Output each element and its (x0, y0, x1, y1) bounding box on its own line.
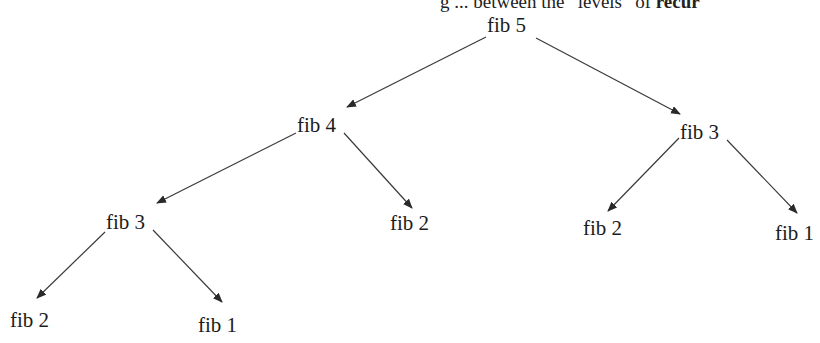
node-fib-2-mid: fib 2 (390, 212, 429, 234)
edge-arrow-n4-n9 (153, 230, 222, 302)
node-fib-1-bottom: fib 1 (198, 314, 237, 336)
node-fib-2-bottom-left: fib 2 (10, 309, 49, 331)
edge-arrow-n3-n7 (727, 140, 797, 213)
node-fib-1-right: fib 1 (775, 222, 814, 244)
node-fib-2-right: fib 2 (583, 217, 622, 239)
tree-edges (0, 0, 820, 343)
edge-arrow-n3-n6 (608, 138, 679, 211)
edge-arrow-n4-n8 (37, 232, 105, 298)
edge-arrow-n2-n5 (344, 133, 412, 208)
edge-arrow-n1-n3 (536, 38, 680, 114)
node-fib-3-left: fib 3 (106, 211, 145, 233)
edge-arrow-n1-n2 (347, 37, 486, 107)
node-fib-5: fib 5 (487, 14, 526, 36)
node-fib-4: fib 4 (297, 114, 336, 136)
node-fib-3-right: fib 3 (680, 121, 719, 143)
edge-arrow-n2-n4 (157, 133, 296, 203)
